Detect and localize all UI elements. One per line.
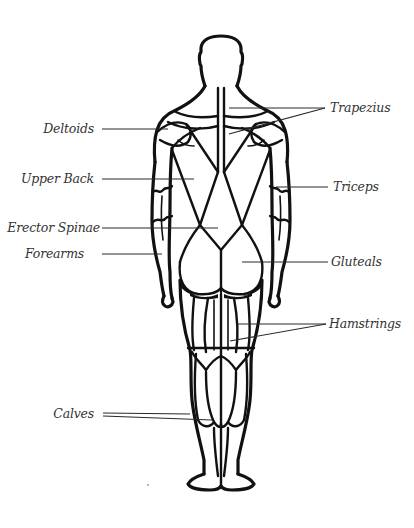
legs <box>180 280 262 490</box>
left-arm <box>152 148 173 307</box>
leader-hamstrings-2 <box>230 324 326 341</box>
label-hamstrings: Hamstrings <box>329 317 401 331</box>
head <box>199 36 242 86</box>
leader-trapezius-2 <box>229 108 325 134</box>
label-erector-spinae: Erector Spinae <box>0 221 100 235</box>
label-triceps: Triceps <box>333 180 379 194</box>
label-forearms: Forearms <box>10 247 84 261</box>
right-arm <box>269 148 290 307</box>
label-upper-back: Upper Back <box>10 172 94 186</box>
label-trapezius: Trapezius <box>330 101 390 115</box>
label-calves: Calves <box>30 407 94 421</box>
label-deltoids: Deltoids <box>20 122 94 136</box>
leader-lines <box>102 108 328 420</box>
label-gluteals: Gluteals <box>331 255 382 269</box>
speck <box>147 484 149 486</box>
leader-calves-1 <box>103 413 190 414</box>
